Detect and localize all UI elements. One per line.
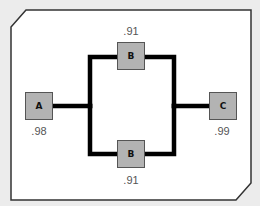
node-a-label: A [36,101,43,111]
node-b-top-reliability: .91 [116,25,146,37]
node-a-reliability: .98 [24,125,54,137]
node-c-label: C [220,101,227,111]
node-b-bottom-reliability: .91 [116,174,146,186]
node-c-reliability: .99 [207,125,237,137]
node-b-bottom: B [117,140,145,168]
node-c: C [209,92,237,120]
node-b-top: B [117,42,145,70]
node-a: A [25,92,53,120]
diagram-canvas: A .98 B .91 B .91 C .99 [0,0,260,206]
node-b-bottom-label: B [128,149,135,159]
node-b-top-label: B [128,51,135,61]
